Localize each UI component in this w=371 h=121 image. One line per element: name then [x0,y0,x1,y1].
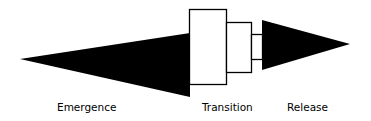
release-wedge [262,20,350,70]
release-label: Release [287,101,328,113]
transition-medium-box [227,23,252,73]
emergence-wedge [20,33,190,97]
transition-large-box [190,10,227,85]
transition-label: Transition [202,101,253,113]
emergence-label: Emergence [57,101,116,113]
transition-small-connector [252,35,263,60]
